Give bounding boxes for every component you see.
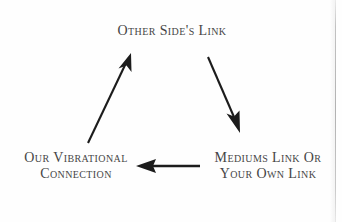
node-label-mediums-link-or-your-own-link: Mediums Link Or Your Own Link xyxy=(200,150,336,182)
diagram-canvas: Other Side's Link Our Vibrational Connec… xyxy=(0,0,342,222)
arrow-right-down xyxy=(208,57,240,133)
arrow-left-up xyxy=(88,53,132,143)
arrow-bottom-left xyxy=(136,159,200,173)
node-label-our-vibrational-connection: Our Vibrational Connection xyxy=(8,150,144,182)
node-label-other-sides-link: Other Side's Link xyxy=(92,23,252,39)
